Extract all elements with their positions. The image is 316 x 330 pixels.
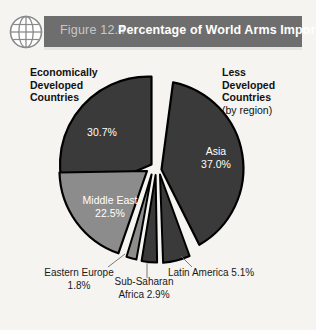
figure-title: Percentage of World Arms Imports: [118, 23, 316, 37]
pie-chart-area: Economically Developed Countries Less De…: [0, 48, 316, 330]
slice-value: 37.0%: [184, 158, 248, 171]
globe-icon: [8, 14, 44, 50]
group-label-line-1: Economically: [30, 66, 98, 79]
group-label-line-2: Developed: [30, 79, 98, 92]
group-label-line-4: (by region): [222, 104, 275, 117]
slice-label-asia: Asia 37.0%: [184, 145, 248, 170]
slice-name: Asia: [184, 145, 248, 158]
figure-page: Figure 12.4 Percentage of World Arms Imp…: [0, 0, 316, 330]
leader-line-eastern-europe: [108, 254, 125, 267]
group-label-less-developed-countries: Less Developed Countries (by region): [222, 66, 275, 116]
slice-value: 30.7%: [72, 126, 132, 139]
figure-number: Figure 12.4: [60, 23, 125, 37]
group-label-line-3: Countries: [222, 91, 275, 104]
callout-label-latin-america: Latin America 5.1%: [168, 267, 284, 280]
figure-header-bar: Figure 12.4 Percentage of World Arms Imp…: [44, 16, 302, 47]
slice-label-middle-east: Middle East 22.5%: [62, 194, 158, 219]
callout-value: Africa 2.9%: [98, 289, 190, 302]
slice-label-economically-developed-countries: 30.7%: [72, 126, 132, 139]
slice-name: Middle East: [62, 194, 158, 207]
slice-value: 22.5%: [62, 207, 158, 220]
group-label-line-1: Less: [222, 66, 275, 79]
callout-label-sub-saharan-africa: Sub-Saharan Africa 2.9%: [98, 276, 190, 301]
group-label-line-2: Developed: [222, 79, 275, 92]
callout-text: Latin America 5.1%: [168, 267, 284, 280]
group-label-economically-developed-countries: Economically Developed Countries: [30, 66, 98, 104]
group-label-line-3: Countries: [30, 91, 98, 104]
